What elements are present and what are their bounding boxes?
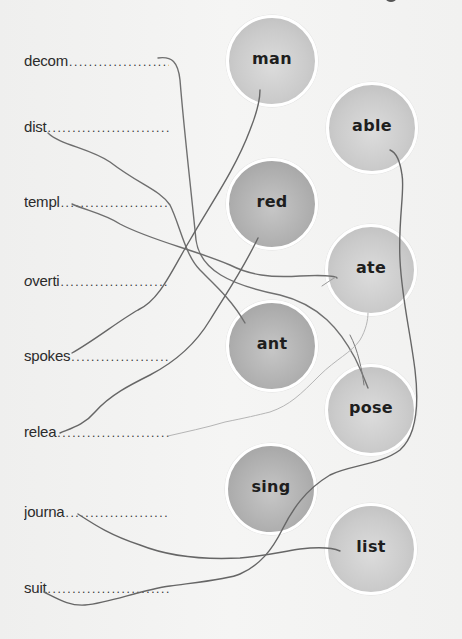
stem-templ[interactable]: templ ..................................…	[24, 191, 169, 211]
dot-leader: ........................................	[60, 195, 169, 211]
dot-leader: ........................................	[60, 274, 170, 290]
stem-journa[interactable]: journa .................................…	[24, 501, 169, 521]
ending-label: man	[252, 49, 292, 68]
top-ink-mark	[386, 0, 396, 2]
dot-leader: ........................................	[70, 349, 169, 365]
ending-bubble-ant[interactable]: ant	[226, 300, 318, 392]
dot-leader: ........................................	[68, 54, 169, 70]
worksheet-page: decom ..................................…	[0, 0, 462, 639]
ending-bubble-sing[interactable]: sing	[225, 443, 317, 535]
stem-label: relea	[24, 423, 56, 441]
ending-label: sing	[251, 477, 290, 496]
line-dist-ant	[48, 133, 245, 323]
stem-relea[interactable]: relea ..................................…	[24, 421, 169, 441]
ending-bubble-pose[interactable]: pose	[325, 364, 417, 456]
stem-dist[interactable]: dist ...................................…	[24, 116, 169, 136]
stem-label: overti	[24, 272, 60, 290]
stem-suit[interactable]: suit ...................................…	[24, 577, 169, 597]
ending-bubble-able[interactable]: able	[326, 82, 418, 174]
ending-bubble-man[interactable]: man	[226, 15, 318, 107]
ending-label: red	[256, 192, 287, 211]
stem-label: spokes	[24, 347, 70, 365]
ending-label: list	[356, 537, 385, 556]
dot-leader: ........................................	[47, 120, 169, 136]
dot-leader: ........................................	[47, 581, 169, 597]
ending-label: ate	[356, 258, 386, 277]
ending-bubble-ate[interactable]: ate	[325, 224, 417, 316]
stem-label: templ	[24, 193, 60, 211]
ending-bubble-red[interactable]: red	[226, 158, 318, 250]
stem-label: decom	[24, 52, 68, 70]
ending-label: pose	[349, 398, 393, 417]
ending-label: ant	[257, 334, 288, 353]
ending-label: able	[352, 116, 392, 135]
stem-label: suit	[24, 579, 47, 597]
stem-decom[interactable]: decom ..................................…	[24, 50, 169, 70]
ending-bubble-list[interactable]: list	[325, 503, 417, 595]
stem-label: journa	[24, 503, 65, 521]
stem-label: dist	[24, 118, 47, 136]
dot-leader: ........................................	[56, 425, 169, 441]
dot-leader: ........................................	[65, 505, 170, 521]
stem-spokes[interactable]: spokes .................................…	[24, 345, 169, 365]
stem-overti[interactable]: overti .................................…	[24, 270, 169, 290]
